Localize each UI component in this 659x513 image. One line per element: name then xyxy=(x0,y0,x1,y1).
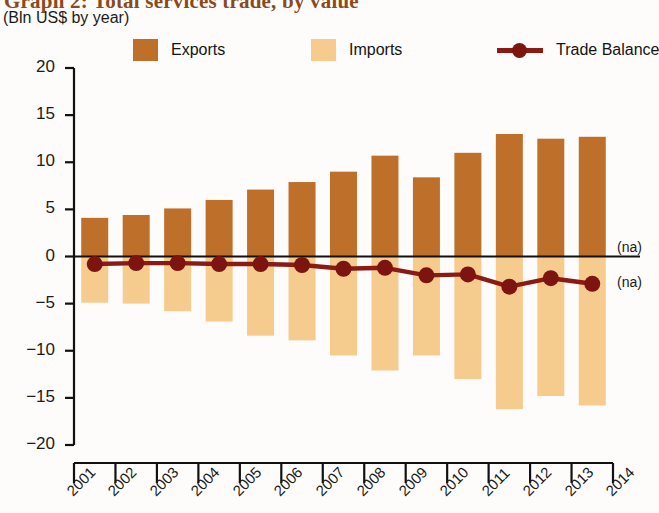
y-axis-label: −15 xyxy=(13,387,55,407)
bar-exports-2001[interactable] xyxy=(81,218,108,257)
trade-balance-point-2004[interactable] xyxy=(211,256,227,272)
bar-exports-2003[interactable] xyxy=(164,208,191,256)
bar-exports-2008[interactable] xyxy=(371,156,398,257)
trade-balance-point-2008[interactable] xyxy=(377,260,393,276)
trade-balance-point-2010[interactable] xyxy=(460,266,476,282)
y-axis-label: 15 xyxy=(13,104,55,124)
bar-exports-2009[interactable] xyxy=(413,177,440,256)
trade-balance-point-2013[interactable] xyxy=(584,276,600,292)
bar-exports-2007[interactable] xyxy=(330,172,357,257)
y-axis-label: −5 xyxy=(13,293,55,313)
y-axis-label: 20 xyxy=(13,57,55,77)
trade-balance-point-2003[interactable] xyxy=(170,255,186,271)
y-axis-label: −10 xyxy=(13,340,55,360)
trade-balance-point-2009[interactable] xyxy=(418,267,434,283)
bar-exports-2004[interactable] xyxy=(206,200,233,257)
bar-exports-2002[interactable] xyxy=(123,215,150,256)
trade-balance-point-2011[interactable] xyxy=(501,279,517,295)
y-axis-label: 5 xyxy=(13,198,55,218)
y-axis-label: 10 xyxy=(13,151,55,171)
y-axis-label: 0 xyxy=(13,246,55,266)
y-axis-label: −20 xyxy=(13,434,55,454)
trade-balance-point-2012[interactable] xyxy=(543,270,559,286)
trade-balance-point-2006[interactable] xyxy=(294,257,310,273)
trade-balance-point-2001[interactable] xyxy=(87,256,103,272)
bar-exports-2005[interactable] xyxy=(247,190,274,257)
trade-balance-point-2007[interactable] xyxy=(336,261,352,277)
na-annotation: (na) xyxy=(617,274,642,290)
bar-exports-2011[interactable] xyxy=(496,134,523,257)
bar-exports-2012[interactable] xyxy=(537,139,564,257)
bar-exports-2006[interactable] xyxy=(289,182,316,256)
bar-exports-2013[interactable] xyxy=(579,137,606,257)
bar-exports-2010[interactable] xyxy=(454,153,481,257)
trade-balance-point-2002[interactable] xyxy=(128,255,144,271)
na-annotation: (na) xyxy=(617,239,642,255)
trade-balance-point-2005[interactable] xyxy=(253,256,269,272)
